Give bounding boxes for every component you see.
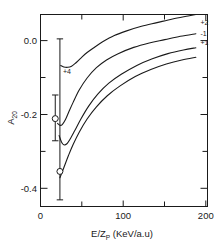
curve-label-+2: +2	[201, 19, 209, 26]
chart-figure: 0.0 -0.2 -0.4 0 100 200 A20 E/ZP (KeV/a.…	[0, 0, 217, 252]
x-axis-ticks	[41, 201, 206, 207]
curve-+4	[61, 15, 196, 68]
x-tick-label-0: 0	[38, 210, 43, 221]
curve-label--1: -1	[201, 30, 207, 37]
curve-+1	[60, 57, 196, 177]
y-axis-title-sub: 20	[11, 111, 18, 119]
svg-text:A20: A20	[5, 111, 18, 125]
y-axis-ticks-right	[201, 41, 208, 189]
x-tick-labels: 0 100 200	[38, 210, 214, 221]
x-tick-label-2: 200	[198, 210, 214, 221]
curve-label-+4: +4	[63, 68, 71, 75]
y-tick-labels: 0.0 -0.2 -0.4	[21, 35, 37, 194]
x-axis-title-main: E/Z	[91, 228, 106, 239]
x-tick-label-1: 100	[115, 210, 131, 221]
x-axis-title: E/ZP (KeV/a.u)	[91, 228, 153, 241]
curve-+2	[58, 34, 196, 126]
y-tick-label-0: 0.0	[24, 35, 37, 46]
y-axis-ticks	[41, 41, 48, 189]
svg-text:E/ZP (KeV/a.u): E/ZP (KeV/a.u)	[91, 228, 153, 241]
x-axis-title-units: (KeV/a.u)	[113, 228, 153, 239]
y-tick-label-1: -0.2	[21, 109, 37, 120]
chart-canvas: 0.0 -0.2 -0.4 0 100 200 A20 E/ZP (KeV/a.…	[0, 0, 217, 252]
experimental-data-points	[52, 39, 63, 200]
y-tick-label-2: -0.4	[21, 183, 37, 194]
data-marker-1	[52, 116, 58, 122]
data-marker-2	[57, 168, 63, 174]
axes-border	[41, 15, 208, 207]
data-curves	[58, 15, 196, 178]
curve-label-+1: +1	[201, 39, 209, 46]
y-axis-title: A20	[5, 111, 18, 125]
plot-frame	[41, 15, 208, 207]
